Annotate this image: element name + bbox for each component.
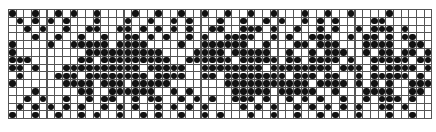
- stitch-dot-icon: [163, 73, 170, 80]
- stitch-dot-icon: [78, 104, 85, 111]
- stitch-dot-icon: [232, 34, 239, 41]
- stitch-dot-icon: [140, 41, 147, 48]
- stitch-dot-icon: [163, 65, 170, 72]
- stitch-dot-icon: [63, 18, 70, 25]
- stitch-dot-icon: [302, 80, 309, 87]
- stitch-dot-icon: [225, 10, 232, 17]
- stitch-dot-icon: [371, 26, 378, 33]
- stitch-dot-icon: [155, 49, 162, 56]
- stitch-dot-icon: [171, 88, 178, 95]
- stitch-dot-icon: [9, 65, 16, 72]
- stitch-dot-icon: [340, 104, 347, 111]
- stitch-dot-icon: [240, 18, 247, 25]
- stitch-dot-icon: [240, 104, 247, 111]
- stitch-dot-icon: [109, 73, 116, 80]
- stitch-dot-icon: [394, 65, 401, 72]
- stitch-dot-icon: [240, 80, 247, 87]
- stitch-dot-icon: [294, 104, 301, 111]
- stitch-dot-icon: [178, 41, 185, 48]
- stitch-dot-icon: [202, 10, 209, 17]
- stitch-dot-icon: [132, 104, 139, 111]
- stitch-dot-icon: [240, 34, 247, 41]
- stitch-dot-icon: [325, 80, 332, 87]
- stitch-dot-icon: [363, 41, 370, 48]
- stitch-dot-icon: [271, 10, 278, 17]
- stitch-dot-icon: [163, 57, 170, 64]
- stitch-dot-icon: [63, 26, 70, 33]
- stitch-dot-icon: [78, 41, 85, 48]
- stitch-dot-icon: [255, 88, 262, 95]
- stitch-dot-icon: [332, 49, 339, 56]
- stitch-dot-icon: [32, 88, 39, 95]
- stitch-dot-icon: [371, 88, 378, 95]
- stitch-dot-icon: [340, 80, 347, 87]
- stitch-dot-icon: [317, 57, 324, 64]
- stitch-dot-icon: [240, 49, 247, 56]
- stitch-dot-icon: [317, 80, 324, 87]
- stitch-dot-icon: [186, 26, 193, 33]
- stitch-dot-icon: [232, 88, 239, 95]
- stitch-dot-icon: [32, 34, 39, 41]
- stitch-dot-icon: [425, 49, 432, 56]
- stitch-dot-icon: [109, 65, 116, 72]
- stitch-dot-icon: [332, 112, 339, 119]
- stitch-dot-icon: [225, 41, 232, 48]
- stitch-dot-icon: [155, 104, 162, 111]
- stitch-dot-icon: [325, 10, 332, 17]
- stitch-dot-icon: [209, 65, 216, 72]
- stitch-dot-icon: [217, 18, 224, 25]
- stitch-dot-icon: [309, 34, 316, 41]
- stitch-dot-icon: [386, 10, 393, 17]
- stitch-dot-icon: [286, 88, 293, 95]
- stitch-dot-icon: [317, 34, 324, 41]
- stitch-dot-icon: [325, 49, 332, 56]
- stitch-dot-icon: [409, 88, 416, 95]
- stitch-dot-icon: [209, 26, 216, 33]
- stitch-dot-icon: [132, 88, 139, 95]
- stitch-dot-icon: [356, 73, 363, 80]
- stitch-dot-icon: [86, 80, 93, 87]
- stitch-dot-icon: [240, 26, 247, 33]
- stitch-dot-icon: [248, 49, 255, 56]
- stitch-dot-icon: [255, 80, 262, 87]
- stitch-dot-icon: [286, 65, 293, 72]
- stitch-dot-icon: [255, 49, 262, 56]
- stitch-dot-icon: [317, 96, 324, 103]
- stitch-dot-icon: [117, 49, 124, 56]
- stitch-dot-icon: [232, 73, 239, 80]
- stitch-dot-icon: [417, 73, 424, 80]
- stitch-dot-icon: [125, 73, 132, 80]
- stitch-dot-icon: [417, 80, 424, 87]
- stitch-dot-icon: [294, 88, 301, 95]
- stitch-dot-icon: [309, 49, 316, 56]
- stitch-dot-icon: [279, 88, 286, 95]
- stitch-dot-icon: [101, 73, 108, 80]
- stitch-dot-icon: [379, 41, 386, 48]
- grid-cell: [424, 110, 433, 119]
- stitch-dot-icon: [371, 57, 378, 64]
- stitch-dot-icon: [78, 65, 85, 72]
- stitch-dot-icon: [125, 41, 132, 48]
- stitch-dot-icon: [417, 88, 424, 95]
- stitch-dot-icon: [409, 112, 416, 119]
- stitch-dot-icon: [63, 80, 70, 87]
- stitch-dot-icon: [386, 49, 393, 56]
- stitch-dot-icon: [132, 34, 139, 41]
- stitch-dot-icon: [109, 49, 116, 56]
- stitch-dot-icon: [86, 57, 93, 64]
- stitch-dot-icon: [294, 73, 301, 80]
- stitch-dot-icon: [309, 88, 316, 95]
- stitch-dot-icon: [78, 34, 85, 41]
- stitch-dot-icon: [263, 49, 270, 56]
- stitch-dot-icon: [225, 80, 232, 87]
- stitch-dot-icon: [94, 49, 101, 56]
- stitch-dot-icon: [86, 49, 93, 56]
- stitch-dot-icon: [263, 80, 270, 87]
- stitch-dot-icon: [217, 112, 224, 119]
- stitch-dot-icon: [255, 73, 262, 80]
- stitch-dot-icon: [248, 80, 255, 87]
- stitch-dot-icon: [279, 73, 286, 80]
- stitch-dot-icon: [186, 104, 193, 111]
- stitch-dot-icon: [202, 49, 209, 56]
- stitch-dot-icon: [363, 34, 370, 41]
